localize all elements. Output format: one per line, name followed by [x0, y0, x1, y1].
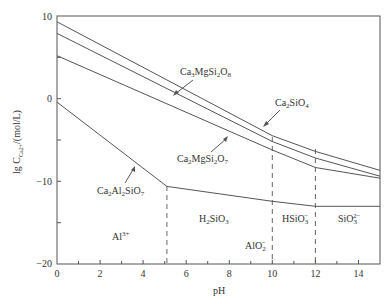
x-tick-6: 6 [184, 268, 189, 279]
svg-text:Ca2SiO4: Ca2SiO4 [275, 97, 309, 110]
label-ca3mgsi2o8: Ca3MgSi2O8 [173, 66, 232, 96]
svg-text:Ca3MgSi2O8: Ca3MgSi2O8 [180, 66, 232, 79]
y-tick-minus-20: −20 [36, 258, 52, 269]
x-tick-10: 10 [267, 268, 277, 279]
region-al3plus: Al3+ [112, 230, 130, 242]
chart: 10 0 −10 −20 0 2 4 6 8 10 12 14 pH lg CC… [0, 0, 390, 304]
y-tick-0: 0 [47, 93, 52, 104]
y-tick-10: 10 [42, 11, 52, 22]
svg-text:Ca2MgSi2O7: Ca2MgSi2O7 [177, 153, 229, 166]
svg-text:Ca2Al2SiO7: Ca2Al2SiO7 [97, 185, 145, 198]
svg-text:lg CCa2+/(mol/L): lg CCa2+/(mol/L) [11, 110, 24, 174]
x-axis-title: pH [213, 285, 225, 296]
label-ca2mgsi2o7: Ca2MgSi2O7 [177, 136, 229, 166]
x-tick-0: 0 [55, 268, 60, 279]
x-tick-4: 4 [141, 268, 146, 279]
line-ca2sio4 [57, 22, 380, 171]
x-tick-2: 2 [98, 268, 103, 279]
x-tick-8: 8 [227, 268, 232, 279]
y-axis-title: lg CCa2+/(mol/L) [11, 110, 24, 174]
region-hsio3minus: HSiO3− [282, 212, 309, 226]
x-tick-14: 14 [354, 268, 364, 279]
x-axis: 0 2 4 6 8 10 12 14 [55, 260, 364, 279]
label-ca2al2sio7: Ca2Al2SiO7 [97, 166, 145, 198]
plot-frame [57, 16, 380, 264]
region-h2sio3: H2SiO3 [199, 213, 229, 226]
y-tick-minus-10: −10 [36, 176, 52, 187]
x-tick-12: 12 [310, 268, 320, 279]
region-sio3-2minus: SiO32− [338, 212, 361, 226]
label-ca2sio4: Ca2SiO4 [263, 97, 309, 127]
region-alo2minus: AlO2− [245, 239, 266, 253]
